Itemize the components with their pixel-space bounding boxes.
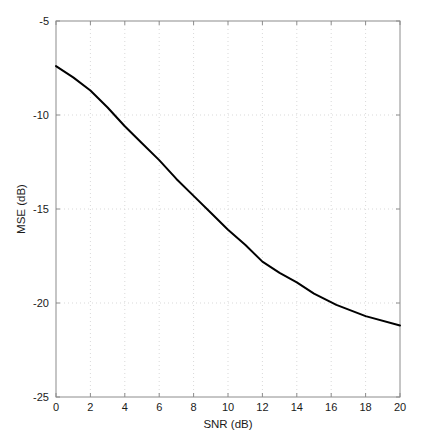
x-tick-label: 8	[191, 401, 197, 413]
x-tick-label: 18	[359, 401, 371, 413]
y-tick-label: -10	[33, 109, 49, 121]
x-tick-label: 20	[394, 401, 406, 413]
x-tick-label: 4	[122, 401, 128, 413]
y-tick-label: -25	[33, 391, 49, 403]
x-tick-label: 2	[87, 401, 93, 413]
y-axis-title: MSE (dB)	[15, 184, 27, 234]
x-tick-label: 6	[156, 401, 162, 413]
x-tick-labels: 02468101214161820	[53, 401, 406, 413]
x-tick-label: 10	[222, 401, 234, 413]
line-chart: 02468101214161820 -25-20-15-10-5 SNR (dB…	[0, 0, 422, 439]
figure-container: 02468101214161820 -25-20-15-10-5 SNR (dB…	[0, 0, 422, 439]
x-tick-label: 0	[53, 401, 59, 413]
y-tick-label: -15	[33, 203, 49, 215]
x-axis-title: SNR (dB)	[203, 418, 252, 430]
grid-lines	[56, 21, 400, 397]
y-tick-labels: -25-20-15-10-5	[33, 15, 49, 403]
x-tick-label: 12	[256, 401, 268, 413]
x-tick-label: 16	[325, 401, 337, 413]
y-tick-label: -5	[39, 15, 49, 27]
y-tick-label: -20	[33, 297, 49, 309]
x-tick-label: 14	[291, 401, 303, 413]
